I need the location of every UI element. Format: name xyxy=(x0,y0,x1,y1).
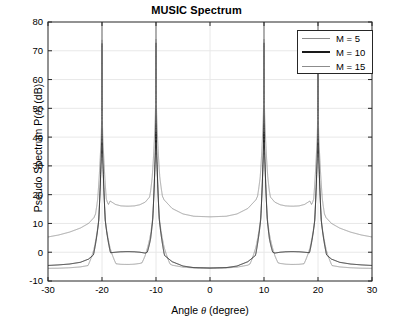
xlabel-suffix: (degree) xyxy=(206,304,249,316)
x-tick-label: -30 xyxy=(41,284,55,295)
legend-line-swatch xyxy=(302,38,330,39)
legend-item-label: M = 5 xyxy=(336,33,360,44)
legend-item-label: M = 10 xyxy=(336,47,365,58)
legend-item-label: M = 15 xyxy=(336,61,365,72)
x-tick-label: -20 xyxy=(95,284,109,295)
y-axis-label: Pseudo Spectrum P(θ) (dB) xyxy=(32,28,44,268)
music-spectrum-figure: MUSIC Spectrum -1001020304050607080-30-2… xyxy=(0,0,393,331)
x-axis-label: Angle θ (degree) xyxy=(48,304,372,316)
ylabel-prefix: Pseudo Spectrum P( xyxy=(32,115,44,212)
legend-line-swatch xyxy=(302,66,330,67)
legend-line-swatch xyxy=(302,51,330,52)
xlabel-prefix: Angle xyxy=(171,304,201,316)
x-tick-label: 10 xyxy=(259,284,270,295)
legend-item[interactable]: M = 10 xyxy=(298,45,372,59)
ylabel-theta: θ xyxy=(33,110,44,115)
legend[interactable]: M = 5M = 10M = 15 xyxy=(297,30,373,74)
y-tick-label: 80 xyxy=(32,16,43,27)
x-tick-label: -10 xyxy=(149,284,163,295)
ylabel-suffix: ) (dB) xyxy=(32,84,44,110)
legend-item[interactable]: M = 5 xyxy=(298,31,372,45)
x-tick-label: 20 xyxy=(313,284,324,295)
legend-item[interactable]: M = 15 xyxy=(298,59,372,73)
x-tick-label: 0 xyxy=(207,284,212,295)
x-tick-label: 30 xyxy=(367,284,378,295)
